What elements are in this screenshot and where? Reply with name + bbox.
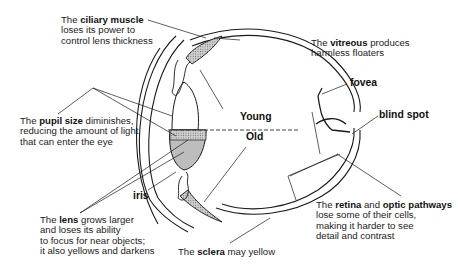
- label-old: Old: [246, 131, 263, 142]
- annotation-retina: The retina and optic pathways lose some …: [316, 200, 452, 242]
- annotation-ciliary-muscle: The ciliary muscle loses its power to co…: [61, 15, 153, 46]
- annotation-sclera: The sclera may yellow: [178, 247, 275, 257]
- annotation-pupil-size: The pupil size diminishes, reducing the …: [20, 116, 138, 147]
- optic-nerve: [316, 88, 350, 132]
- ciliary-muscle-lower: [180, 190, 222, 222]
- label-young: Young: [240, 111, 272, 122]
- pupil-hatch: [170, 130, 206, 140]
- annotation-vitreous: The vitreous produces harmless floaters: [311, 38, 410, 59]
- label-iris: iris: [133, 190, 149, 201]
- lens-young: [172, 82, 198, 130]
- label-fovea: fovea: [350, 77, 377, 88]
- label-blind-spot: blind spot: [379, 109, 429, 120]
- annotation-lens: The lens grows larger and loses its abil…: [40, 215, 155, 257]
- ciliary-muscle-upper: [186, 36, 222, 64]
